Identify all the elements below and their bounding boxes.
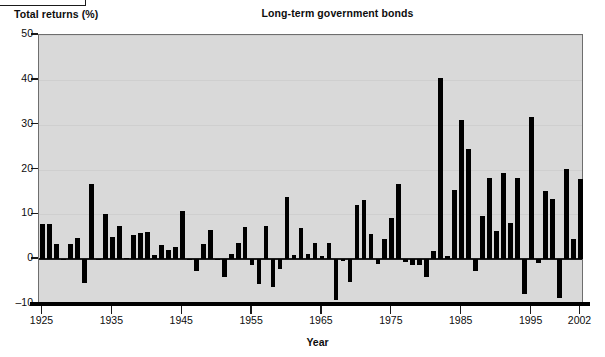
chart-title: Long-term government bonds <box>0 7 605 19</box>
x-tick-label: 1955 <box>221 314 281 326</box>
x-tick-1945 <box>181 306 182 314</box>
bar <box>40 224 45 259</box>
bar <box>571 239 576 260</box>
bar <box>243 227 248 259</box>
bar <box>445 256 450 259</box>
x-tick-label: 1945 <box>151 314 211 326</box>
bar <box>201 244 206 259</box>
x-axis-title: Year <box>0 336 605 348</box>
bar <box>278 259 283 269</box>
bar <box>180 211 185 259</box>
bar <box>313 243 318 259</box>
bar <box>187 259 192 260</box>
bar <box>389 218 394 259</box>
bar <box>264 226 269 260</box>
x-tick-label: 1975 <box>361 314 421 326</box>
bar <box>82 259 87 283</box>
bar <box>362 200 367 259</box>
bar <box>424 259 429 277</box>
bar <box>459 120 464 259</box>
bar <box>466 149 471 259</box>
y-tick-label: 10 <box>21 206 33 218</box>
bar <box>327 243 332 259</box>
bar <box>334 259 339 300</box>
bar <box>473 259 478 271</box>
bar <box>110 237 115 259</box>
bar <box>578 179 583 259</box>
x-tick-1965 <box>320 306 321 314</box>
bar <box>215 259 220 260</box>
bar <box>96 259 101 260</box>
y-tick-label: 30 <box>21 117 33 129</box>
bar <box>355 205 360 259</box>
x-tick-1925 <box>41 306 42 314</box>
bar <box>61 259 66 260</box>
bar <box>557 259 562 298</box>
bar <box>452 190 457 259</box>
bar <box>536 259 541 263</box>
bar <box>515 178 520 260</box>
corner-box-fragment <box>0 0 86 6</box>
bar <box>487 178 492 259</box>
bar <box>348 259 353 282</box>
bar <box>438 78 443 259</box>
bar <box>550 199 555 260</box>
bar <box>417 259 422 264</box>
bar <box>480 216 485 259</box>
bar <box>124 258 129 259</box>
bar <box>320 256 325 259</box>
bar <box>369 234 374 260</box>
bar <box>236 243 241 259</box>
bar <box>103 214 108 259</box>
x-tick-2002 <box>579 306 580 314</box>
bar <box>159 245 164 259</box>
bar <box>564 169 569 259</box>
x-tick-1995 <box>530 306 531 314</box>
x-tick-label: 1925 <box>11 314 71 326</box>
bar <box>341 259 346 260</box>
bar <box>131 235 136 260</box>
bar <box>166 250 171 259</box>
x-tick-1935 <box>111 306 112 314</box>
bar <box>508 223 513 259</box>
bar <box>410 259 415 264</box>
bar <box>522 259 527 294</box>
bar-series <box>39 35 582 303</box>
bar <box>396 184 401 259</box>
x-tick-label: 2002 <box>550 314 605 326</box>
bar <box>306 254 311 259</box>
bar <box>382 239 387 259</box>
bar <box>138 233 143 259</box>
bar <box>89 184 94 259</box>
chart-page: Total returns (%) Long-term government b… <box>0 0 605 357</box>
bar <box>54 244 59 259</box>
bar <box>222 259 227 276</box>
bar <box>208 230 213 259</box>
plot-area <box>38 34 583 303</box>
bar <box>299 228 304 259</box>
bar <box>271 259 276 286</box>
bar <box>501 173 506 260</box>
y-tick-label: 40 <box>21 72 33 84</box>
bar <box>229 254 234 259</box>
bar <box>152 255 157 259</box>
bar <box>47 224 52 259</box>
bar <box>543 191 548 259</box>
bar <box>75 238 80 259</box>
y-tick-label: 20 <box>21 162 33 174</box>
bar <box>117 226 122 260</box>
bar <box>194 259 199 271</box>
bar <box>292 255 297 259</box>
x-tick-1975 <box>390 306 391 314</box>
bar <box>376 259 381 264</box>
bar <box>431 251 436 260</box>
x-tick-label: 1985 <box>431 314 491 326</box>
bar <box>529 117 534 259</box>
bar <box>257 259 262 284</box>
bar <box>403 259 408 262</box>
y-tick-label: 0 <box>27 251 33 263</box>
bar <box>68 244 73 259</box>
bar <box>173 247 178 260</box>
bar <box>145 232 150 259</box>
y-tick-label: 50 <box>21 27 33 39</box>
